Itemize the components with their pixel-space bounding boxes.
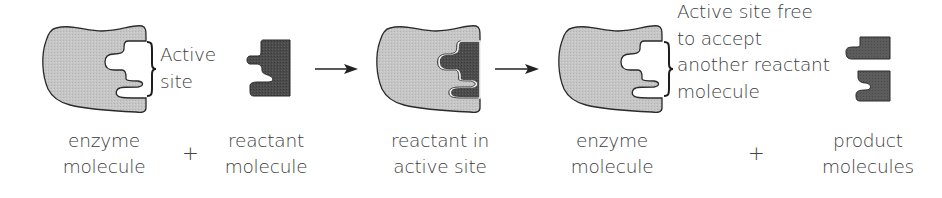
plus-sign-2: + bbox=[748, 141, 765, 165]
annotation-line: Active bbox=[160, 41, 216, 68]
label-line: reactant in bbox=[380, 128, 500, 154]
product-molecule-bottom bbox=[856, 71, 890, 101]
active-site-annotation: Active site bbox=[160, 41, 216, 95]
arrow-2 bbox=[495, 64, 539, 74]
enzyme-molecule-1 bbox=[43, 26, 146, 113]
product-molecule-top bbox=[846, 37, 890, 59]
reactant-molecule bbox=[247, 40, 290, 96]
label-line: product bbox=[808, 128, 928, 154]
label-product-molecules: product molecules bbox=[808, 128, 928, 180]
enzyme-molecule-2 bbox=[559, 26, 662, 113]
active-site-brace bbox=[147, 42, 156, 96]
plus-sign-1: + bbox=[182, 141, 199, 165]
label-line: enzyme bbox=[48, 128, 160, 154]
label-line: molecules bbox=[808, 154, 928, 180]
label-enzyme-molecule-free: enzyme molecule bbox=[556, 128, 668, 180]
label-line: active site bbox=[380, 154, 500, 180]
enzyme-reactant-complex bbox=[377, 26, 480, 113]
label-line: molecule bbox=[556, 154, 668, 180]
active-site-free-brace bbox=[664, 42, 673, 96]
label-reactant-in-active-site: reactant in active site bbox=[380, 128, 500, 180]
active-site-free-annotation: Active site free to accept another react… bbox=[677, 0, 830, 105]
label-reactant-molecule: reactant molecule bbox=[210, 128, 322, 180]
annotation-line: molecule bbox=[677, 79, 830, 106]
label-enzyme-molecule: enzyme molecule bbox=[48, 128, 160, 180]
label-line: molecule bbox=[210, 154, 322, 180]
label-line: enzyme bbox=[556, 128, 668, 154]
annotation-line: another reactant bbox=[677, 52, 830, 79]
annotation-line: site bbox=[160, 68, 216, 95]
label-line: molecule bbox=[48, 154, 160, 180]
label-line: reactant bbox=[210, 128, 322, 154]
annotation-line: Active site free bbox=[677, 0, 830, 26]
annotation-line: to accept bbox=[677, 26, 830, 53]
arrow-1 bbox=[315, 64, 358, 74]
